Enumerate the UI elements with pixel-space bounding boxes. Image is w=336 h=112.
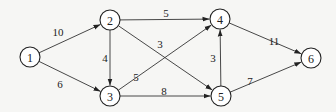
edge-5-to-6: 7 <box>230 62 301 92</box>
arrow-line <box>39 24 100 52</box>
edge-weight-label: 4 <box>102 52 108 64</box>
edge-weight-label: 5 <box>133 71 139 83</box>
arrow-line <box>229 23 301 54</box>
edge-2-to-4: 5 <box>120 7 210 20</box>
arrow-line <box>120 19 210 20</box>
node-label: 4 <box>217 13 223 27</box>
edge-weight-label: 3 <box>210 52 216 64</box>
node-4: 4 <box>210 9 230 29</box>
node-label: 2 <box>107 14 113 28</box>
edge-1-to-2: 10 <box>39 24 100 52</box>
edge-1-to-3: 6 <box>39 61 101 91</box>
edge-5-to-4: 3 <box>210 29 221 86</box>
node-label: 3 <box>107 90 113 104</box>
edge-weight-label: 5 <box>163 7 169 19</box>
node-1: 1 <box>20 47 40 67</box>
arrow-line <box>39 61 101 91</box>
edge-weight-label: 10 <box>53 26 65 38</box>
edge-weight-label: 11 <box>269 35 280 47</box>
edge-weight-label: 6 <box>57 78 63 90</box>
node-label: 5 <box>218 90 224 104</box>
node-label: 1 <box>27 51 33 65</box>
node-5: 5 <box>211 86 231 106</box>
edges-layer: 106453583117 <box>39 7 301 97</box>
edge-weight-label: 3 <box>157 38 163 50</box>
node-2: 2 <box>100 10 120 30</box>
edge-weight-label: 7 <box>247 75 253 87</box>
network-graph: 106453583117 123456 <box>0 0 336 112</box>
nodes-layer: 123456 <box>20 9 321 106</box>
edge-3-to-5: 8 <box>120 85 211 97</box>
node-6: 6 <box>301 48 321 68</box>
edge-2-to-3: 4 <box>102 30 110 86</box>
arrow-line <box>230 62 301 92</box>
node-label: 6 <box>308 52 314 66</box>
edge-weight-label: 8 <box>161 85 167 97</box>
arrow-line <box>220 29 221 86</box>
edge-4-to-6: 11 <box>229 23 301 54</box>
node-3: 3 <box>100 86 120 106</box>
